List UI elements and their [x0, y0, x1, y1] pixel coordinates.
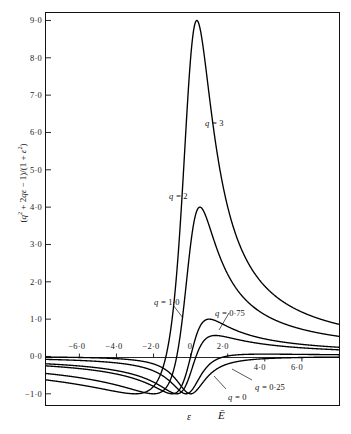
y-tick-label: 4·0	[12, 202, 42, 212]
curve-label-q-0: q = 0	[228, 392, 247, 402]
figure-container: (q2 + 2qε − 1)/(1 + ε2) ε Ē −6·0−4·0−2·0…	[0, 0, 351, 434]
y-tick-label: 1·0	[12, 314, 42, 324]
x-tick-label: 2·0	[217, 341, 229, 351]
curve-label-q-3: q = 3	[205, 118, 224, 128]
x-tick-label: 4·0	[254, 362, 266, 372]
curve-label-q-0-25: q = 0·25	[255, 382, 285, 392]
y-tick-label: 3·0	[12, 239, 42, 249]
x-tick-label: −2·0	[143, 341, 160, 351]
y-tick-label: 5·0	[12, 165, 42, 175]
y-tick-label: 0·0	[12, 351, 42, 361]
y-tick-label: 7·0	[12, 90, 42, 100]
x-tick-label: −4·0	[105, 341, 122, 351]
y-tick-label: 8·0	[12, 53, 42, 63]
y-tick-label: 2·0	[12, 277, 42, 287]
y-tick-label: −1·0	[12, 389, 42, 399]
y-tick-label: 6·0	[12, 127, 42, 137]
curve-label-q-0-75: q = 0·75	[215, 308, 245, 318]
x-tick-label: 6·0	[291, 362, 303, 372]
curve-label-q-2: q = 2	[169, 191, 188, 201]
y-tick-label: 9·0	[12, 15, 42, 25]
curve-label-q-1-0: q = 1·0	[154, 297, 180, 307]
x-axis-symbol-e-bar: Ē	[218, 409, 225, 421]
x-tick-label: 0	[188, 341, 192, 351]
x-tick-label: −6·0	[68, 341, 85, 351]
x-axis-symbol-epsilon: ε	[187, 411, 191, 422]
